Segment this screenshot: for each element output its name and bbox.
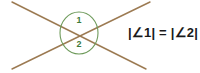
angle-1-label: 1 [76, 15, 81, 25]
vertical-angles-diagram: 1 2 |∠1| = |∠2| [0, 0, 200, 73]
angle-equality-equation: |∠1| = |∠2| [128, 24, 188, 41]
angle-2-label: 2 [76, 39, 81, 49]
